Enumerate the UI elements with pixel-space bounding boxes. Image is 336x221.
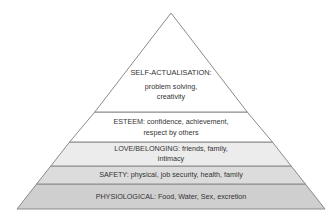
- love-belonging-line1: LOVE/BELONGING: friends, family,: [81, 144, 261, 154]
- esteem-line2: respect by others: [91, 128, 251, 138]
- physiological-label: PHYSIOLOGICAL: Food, Water, Sex, excreti…: [51, 192, 291, 202]
- self-actualisation-line1: problem solving,: [121, 82, 221, 92]
- safety-label: SAFETY: physical, job security, health, …: [61, 170, 281, 180]
- self-actualisation-title: SELF-ACTUALISATION:: [111, 68, 231, 78]
- love-belonging-line2: intimacy: [81, 154, 261, 164]
- esteem-line1: ESTEEM: confidence, achievement,: [91, 117, 251, 127]
- self-actualisation-line2: creativity: [121, 92, 221, 102]
- pyramid-shape: [0, 0, 336, 221]
